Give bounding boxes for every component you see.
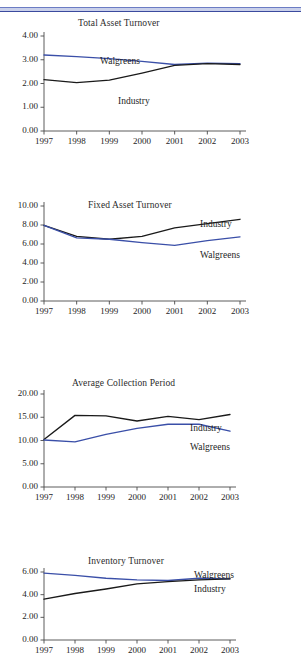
y-axis-tick-label: 5.00 [0, 458, 38, 468]
chart-total-asset-turnover: Total Asset Turnover4.003.002.001.000.00… [0, 18, 301, 157]
series-label-industry: Industry [118, 96, 150, 106]
x-axis-tick-label: 1997 [27, 136, 61, 146]
y-axis-tick-label: 2.00 [0, 276, 38, 286]
y-axis-tick-label: 10.00 [0, 435, 38, 445]
series-label-walgreens: Walgreens [190, 442, 230, 452]
x-axis-tick-label: 1998 [58, 492, 92, 502]
y-axis-tick-label: 4.00 [0, 589, 38, 599]
x-axis-tick-label: 1999 [92, 306, 126, 316]
x-axis-tick-label: 2003 [223, 136, 257, 146]
y-axis-tick-label: 20.00 [0, 388, 38, 398]
x-axis-tick-label: 1997 [27, 306, 61, 316]
x-axis-tick-label: 2000 [125, 136, 159, 146]
y-axis-tick-label: 15.00 [0, 411, 38, 421]
x-axis-tick-label: 1999 [89, 645, 123, 655]
series-label-industry: Industry [194, 584, 226, 594]
x-axis-tick-label: 2001 [151, 492, 185, 502]
y-axis-tick-label: 3.00 [0, 54, 38, 64]
x-axis-tick-label: 1999 [89, 492, 123, 502]
y-axis-tick-label: 1.00 [0, 101, 38, 111]
y-axis-tick-label: 10.00 [0, 200, 38, 210]
y-axis-tick-label: 0.00 [0, 481, 38, 491]
y-axis-tick-label: 2.00 [0, 78, 38, 88]
y-axis-tick-label: 6.00 [0, 238, 38, 248]
x-axis-tick-label: 1997 [27, 645, 61, 655]
y-axis-tick-label: 6.00 [0, 566, 38, 576]
y-axis-tick-label: 4.00 [0, 257, 38, 267]
plot-area [0, 190, 301, 325]
x-axis-tick-label: 2002 [182, 645, 216, 655]
x-axis-tick-label: 2002 [190, 136, 224, 146]
x-axis-tick-label: 2003 [213, 492, 247, 502]
x-axis-tick-label: 2000 [125, 306, 159, 316]
y-axis-tick-label: 8.00 [0, 219, 38, 229]
series-line-industry [44, 64, 240, 83]
series-label-walgreens: Walgreens [200, 250, 240, 260]
y-axis-tick-label: 2.00 [0, 611, 38, 621]
series-label-industry: Industry [190, 423, 222, 433]
plot-area [0, 552, 301, 657]
x-axis-tick-label: 2002 [182, 492, 216, 502]
x-axis-tick-label: 2000 [120, 492, 154, 502]
plot-area [0, 18, 301, 155]
series-label-walgreens: Walgreens [194, 570, 234, 580]
x-axis-tick-label: 2003 [213, 645, 247, 655]
x-axis-tick-label: 2002 [190, 306, 224, 316]
x-axis-tick-label: 2001 [158, 136, 192, 146]
header-rule [0, 7, 301, 12]
series-label-walgreens: Walgreens [100, 56, 140, 66]
x-axis-tick-label: 1998 [60, 306, 94, 316]
x-axis-tick-label: 1997 [27, 492, 61, 502]
chart-average-collection-period: Average Collection Period20.0015.0010.00… [0, 378, 301, 513]
x-axis-tick-label: 2003 [223, 306, 257, 316]
series-label-industry: Industry [200, 219, 232, 229]
x-axis-tick-label: 1998 [60, 136, 94, 146]
x-axis-tick-label: 2000 [120, 645, 154, 655]
y-axis-tick-label: 0.00 [0, 634, 38, 644]
x-axis-tick-label: 1999 [92, 136, 126, 146]
x-axis-tick-label: 2001 [158, 306, 192, 316]
chart-inventory-turnover: Inventory Turnover6.004.002.000.00199719… [0, 552, 301, 657]
x-axis-tick-label: 1998 [58, 645, 92, 655]
y-axis-tick-label: 0.00 [0, 295, 38, 305]
chart-fixed-asset-turnover: Fixed Asset Turnover10.008.006.004.002.0… [0, 190, 301, 327]
y-axis-tick-label: 0.00 [0, 125, 38, 135]
y-axis-tick-label: 4.00 [0, 30, 38, 40]
x-axis-tick-label: 2001 [151, 645, 185, 655]
